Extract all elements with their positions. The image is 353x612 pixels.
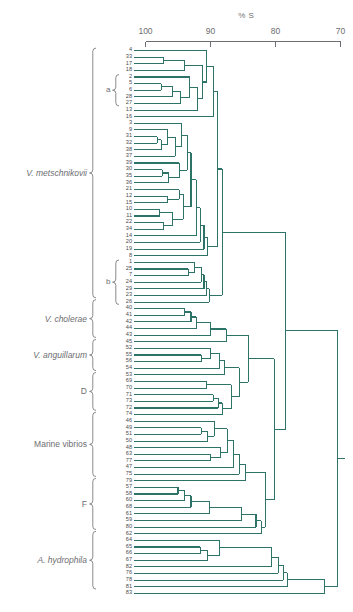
dendrogram-canvas — [0, 0, 353, 612]
dendrogram-figure: % S 100908070 43317182562827131639313238… — [0, 0, 353, 612]
